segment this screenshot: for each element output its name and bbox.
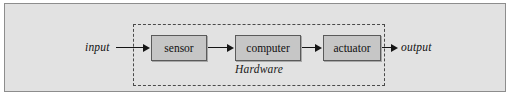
hardware-enclosure-label: Hardware — [133, 63, 385, 75]
node-computer-label: computer — [246, 42, 289, 54]
diagram-panel: Hardware input sensor computer actuator … — [4, 3, 506, 92]
edge-actuator-to-output — [382, 47, 391, 48]
node-sensor-label: sensor — [164, 42, 193, 54]
node-actuator: actuator — [323, 35, 381, 61]
arrowhead-sensor-to-computer — [227, 44, 234, 52]
edge-computer-to-actuator — [302, 47, 315, 48]
node-computer: computer — [235, 35, 301, 61]
arrowhead-actuator-to-output — [391, 44, 398, 52]
arrowhead-computer-to-actuator — [315, 44, 322, 52]
figure-diagram: Hardware input sensor computer actuator … — [0, 0, 514, 100]
edge-sensor-to-computer — [208, 47, 227, 48]
edge-input-to-sensor — [116, 47, 144, 48]
node-actuator-label: actuator — [333, 42, 370, 54]
terminal-label-output: output — [401, 41, 432, 53]
arrowhead-input-to-sensor — [143, 44, 150, 52]
terminal-label-input: input — [85, 41, 110, 53]
node-sensor: sensor — [151, 35, 207, 61]
